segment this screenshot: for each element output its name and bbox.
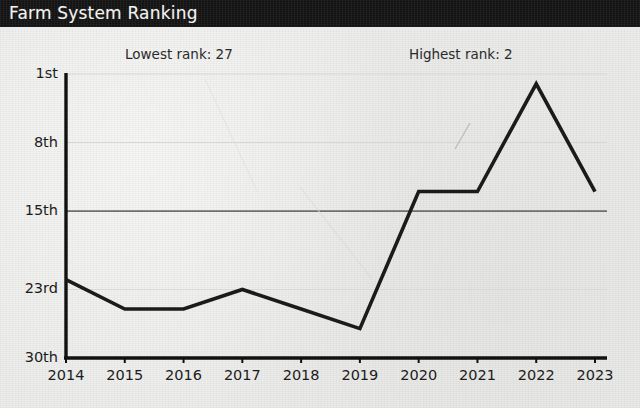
- screenshot-root: Farm System Ranking Lowest rank: 27 High…: [0, 0, 640, 408]
- x-axis-label-2019: 2019: [332, 367, 388, 383]
- data-series-line: [66, 84, 595, 329]
- y-axis-label-23rd: 23rd: [6, 280, 58, 296]
- axis-lines: [64, 73, 607, 358]
- x-axis-label-2023: 2023: [567, 367, 623, 383]
- y-axis-label-15th: 15th: [6, 202, 58, 218]
- smudge-streak-3: [205, 79, 258, 193]
- series-line-farm-system-ranking: [66, 84, 595, 329]
- y-axis-label-8th: 8th: [6, 134, 58, 150]
- y-axis-label-1st: 1st: [6, 65, 58, 81]
- x-axis-label-2016: 2016: [156, 367, 212, 383]
- chart-area: Lowest rank: 27 Highest rank: 2 1st8th15…: [0, 27, 640, 408]
- title-bar: Farm System Ranking: [0, 0, 640, 27]
- y-axis-label-30th: 30th: [6, 349, 58, 365]
- x-axis-label-2015: 2015: [97, 367, 153, 383]
- smudge-streak-1: [455, 123, 470, 149]
- smudge-streak-2: [300, 187, 372, 279]
- x-axis-label-2022: 2022: [508, 367, 564, 383]
- scan-smudges: [205, 79, 470, 279]
- line-chart-plot: [0, 27, 640, 408]
- x-axis-label-2014: 2014: [38, 367, 94, 383]
- x-axis-label-2018: 2018: [273, 367, 329, 383]
- x-axis-label-2021: 2021: [449, 367, 505, 383]
- page-title: Farm System Ranking: [0, 5, 198, 22]
- x-axis-label-2017: 2017: [214, 367, 270, 383]
- x-axis-label-2020: 2020: [391, 367, 447, 383]
- gridlines: [66, 74, 607, 358]
